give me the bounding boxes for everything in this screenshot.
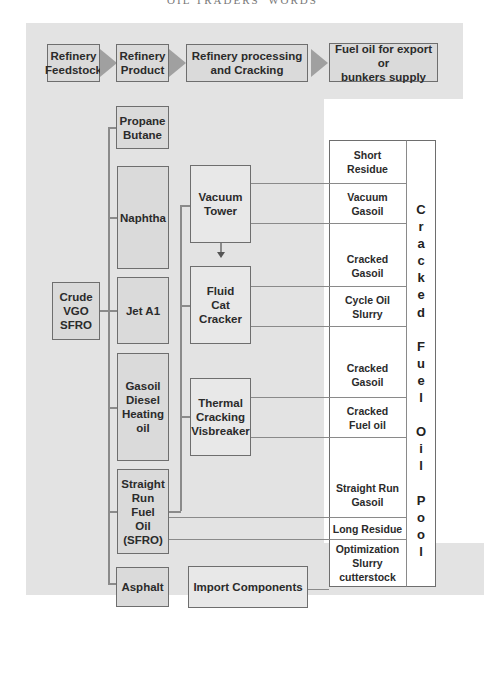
connector-line: [180, 205, 182, 511]
left-panel-background: [26, 99, 324, 595]
pool-cell-cracked-gasoil: Cracked Gasoil: [329, 224, 406, 287]
flow-step-refinery-processing: Refinery processing and Cracking: [186, 44, 308, 82]
feedstock-crude-vgo-sfro: Crude VGO SFRO: [52, 282, 100, 340]
product-asphalt: Asphalt: [116, 567, 169, 607]
connector-line: [251, 437, 329, 438]
connector-line: [251, 397, 329, 398]
import-components: Import Components: [188, 566, 308, 608]
connector-line: [251, 183, 329, 184]
product-jet-a1: Jet A1: [117, 277, 169, 344]
flow-arrow-icon: [169, 49, 186, 77]
connector-line: [169, 517, 329, 518]
connector-line: [108, 407, 117, 409]
connector-line: [100, 310, 117, 312]
cracked-fuel-oil-pool: C r a c k e d F u e l O i l P o o l: [406, 140, 436, 587]
flow-step-refinery-feedstock: Refinery Feedstock: [47, 44, 100, 82]
pool-cell-cracked-fuel-oil: Cracked Fuel oil: [329, 398, 406, 438]
pool-cell-straight-run-gasoil: Straight Run Gasoil: [329, 438, 406, 518]
connector-line: [169, 539, 329, 540]
down-arrow-icon: [217, 252, 225, 258]
pool-cell-short-residue: Short Residue: [329, 141, 406, 184]
pool-cell-long-residue: Long Residue: [329, 518, 406, 540]
connector-line: [251, 286, 329, 287]
pool-cell-cycle-oil-slurry: Cycle Oil Slurry: [329, 287, 406, 327]
connector-line: [251, 326, 329, 327]
pool-cell-optimization-slurry-cutterstock: Optimization Slurry cutterstock: [329, 540, 406, 586]
connector-line: [308, 589, 329, 590]
product-propane-butane: Propane Butane: [116, 106, 169, 149]
flow-arrow-icon: [311, 49, 328, 77]
process-vacuum-tower: Vacuum Tower: [190, 165, 251, 243]
connector-line: [108, 217, 117, 219]
flow-step-fuel-oil-export: Fuel oil for export or bunkers supply: [329, 43, 438, 82]
process-fluid-cat-cracker: Fluid Cat Cracker: [190, 266, 251, 344]
flow-arrow-icon: [100, 49, 117, 77]
pool-cell-cracked-gasoil-2: Cracked Gasoil: [329, 327, 406, 398]
connector-line: [108, 127, 110, 583]
connector-line: [251, 223, 329, 224]
connector-line: [169, 511, 181, 513]
flow-step-refinery-product: Refinery Product: [116, 44, 169, 82]
product-gasoil-diesel-heating-oil: Gasoil Diesel Heating oil: [117, 353, 169, 461]
pool-title: C r a c k e d F u e l O i l P o o l: [407, 201, 435, 560]
running-head: OIL TRADERS' WORDS: [0, 0, 485, 6]
product-straight-run-fuel-oil: Straight Run Fuel Oil (SFRO): [117, 469, 169, 554]
product-naphtha: Naphtha: [117, 166, 169, 269]
pool-cell-vacuum-gasoil: Vacuum Gasoil: [329, 184, 406, 224]
process-thermal-cracking-visbreaker: Thermal Cracking Visbreaker: [190, 378, 251, 456]
connector-line: [108, 511, 117, 513]
